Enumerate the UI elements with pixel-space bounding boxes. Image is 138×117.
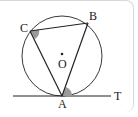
center-point-o bbox=[61, 53, 64, 56]
label-c: C bbox=[20, 21, 28, 35]
chord-cb bbox=[30, 23, 88, 31]
label-t: T bbox=[114, 89, 122, 103]
label-o: O bbox=[58, 57, 67, 71]
label-a: A bbox=[58, 97, 67, 111]
circle-o bbox=[22, 16, 102, 96]
label-b: B bbox=[89, 9, 97, 23]
geometry-figure: C B O A T bbox=[0, 0, 138, 117]
